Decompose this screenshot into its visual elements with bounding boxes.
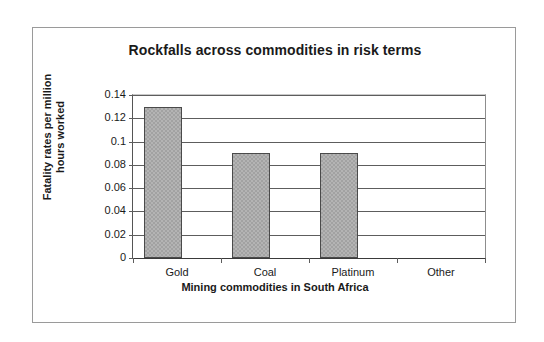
y-tick-label: 0.02 <box>66 228 132 240</box>
bar-group <box>221 95 309 258</box>
x-tick-mark <box>397 258 398 263</box>
x-axis-title: Mining commodities in South Africa <box>33 281 517 293</box>
y-tick-label: 0.1 <box>66 135 132 147</box>
x-tick-mark <box>309 258 310 263</box>
y-tick-label: 0.04 <box>66 204 132 216</box>
x-category-label-gold: Gold <box>133 266 221 278</box>
chart-frame: Rockfalls across commodities in risk ter… <box>32 27 516 323</box>
y-tick-label: 0 <box>66 251 132 263</box>
y-tick-label: 0.12 <box>66 111 132 123</box>
bar-group <box>309 95 397 258</box>
y-tick-label: 0.08 <box>66 158 132 170</box>
x-tick-mark <box>485 258 486 263</box>
chart-title: Rockfalls across commodities in risk ter… <box>33 42 517 58</box>
y-axis-title-line-1: Fatality rates per million <box>41 74 53 201</box>
x-category-label-other: Other <box>397 266 485 278</box>
bar-group <box>133 95 221 258</box>
bar-coal[interactable] <box>232 153 270 258</box>
plot-area: 0.140.120.10.080.060.040.020 GoldCoalPla… <box>132 94 486 258</box>
bar-platinum[interactable] <box>320 153 358 258</box>
x-category-label-coal: Coal <box>221 266 309 278</box>
x-tick-mark <box>221 258 222 263</box>
bar-group <box>397 95 485 258</box>
x-category-label-platinum: Platinum <box>309 266 397 278</box>
y-axis-title-line-2: hours worked <box>54 101 66 173</box>
x-tick-mark <box>133 258 134 263</box>
bars-layer <box>133 95 485 258</box>
bar-gold[interactable] <box>144 107 182 258</box>
y-tick-label: 0.06 <box>66 181 132 193</box>
y-tick-label: 0.14 <box>66 88 132 100</box>
